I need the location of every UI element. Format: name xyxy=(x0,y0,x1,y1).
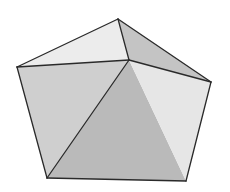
faces-group xyxy=(17,19,211,181)
diagram-canvas xyxy=(0,0,230,192)
polyhedron-figure xyxy=(0,0,230,192)
top-left-face xyxy=(17,19,129,67)
